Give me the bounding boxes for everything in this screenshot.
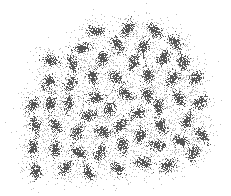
scatter-plot-canvas [0, 0, 231, 196]
